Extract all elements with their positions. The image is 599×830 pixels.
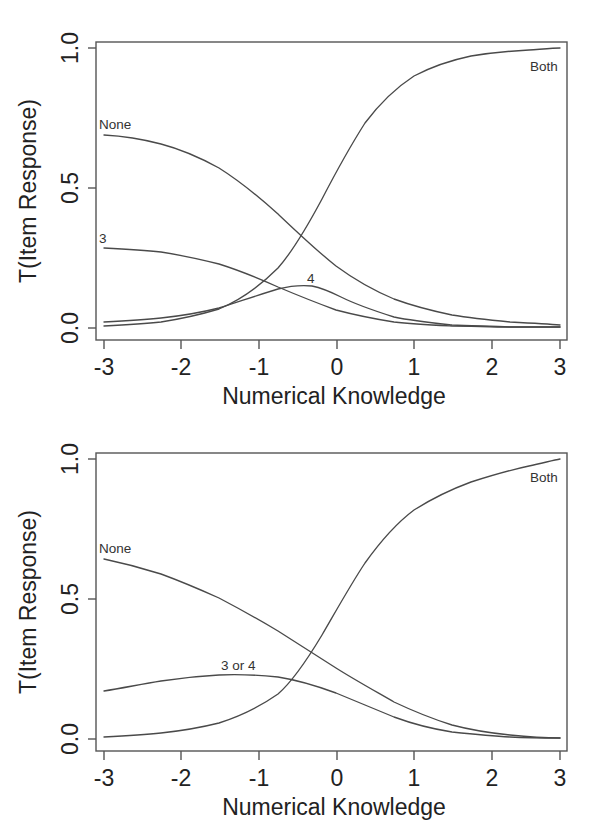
curves-group [104, 48, 560, 327]
curve-label-none: None [99, 541, 131, 556]
bottom-panel: 1.0 0.5 0.0 -3 -2 -1 0 1 2 3 Numerical K… [0, 415, 599, 830]
curve-none [104, 135, 560, 325]
curve-label-none: None [99, 117, 131, 132]
x-axis-title: Numerical Knowledge [222, 794, 446, 820]
curve-label-both: Both [530, 470, 558, 485]
x-ticklabel--1: -1 [249, 354, 269, 380]
curve-label-4: 4 [307, 271, 315, 286]
x-ticklabel-3: 3 [554, 354, 567, 380]
x-ticklabel--3: -3 [94, 354, 114, 380]
x-axis-title: Numerical Knowledge [222, 383, 446, 409]
curve-both [104, 459, 560, 737]
curve-3or4 [104, 675, 560, 738]
y-axis-title: T(Item Response) [15, 99, 41, 283]
curve-label-both: Both [530, 59, 558, 74]
plot-frame [96, 42, 567, 340]
y-ticklabel-0.0: 0.0 [57, 312, 83, 344]
y-ticklabel-0.0: 0.0 [57, 723, 83, 755]
curve-none [104, 559, 560, 738]
stacked-item-response-figure: 1.0 0.5 0.0 -3 -2 -1 0 1 2 3 Numerical K… [0, 0, 599, 830]
x-ticklabel--3: -3 [94, 765, 114, 791]
x-ticklabel-1: 1 [408, 765, 421, 791]
y-ticklabel-1.0: 1.0 [57, 32, 83, 64]
x-ticklabel--1: -1 [249, 765, 269, 791]
x-ticklabel-3: 3 [554, 765, 567, 791]
x-ticklabel-2: 2 [486, 765, 499, 791]
curve-label-3or4: 3 or 4 [221, 658, 256, 673]
curve-4 [104, 286, 560, 327]
y-ticklabel-0.5: 0.5 [57, 583, 83, 615]
x-ticklabel-0: 0 [331, 765, 344, 791]
curve-3 [104, 248, 560, 327]
curve-label-3: 3 [99, 231, 107, 246]
x-ticklabel--2: -2 [171, 765, 191, 791]
curves-group [104, 459, 560, 738]
plot-frame [96, 453, 567, 751]
y-ticklabel-0.5: 0.5 [57, 172, 83, 204]
x-ticklabel--2: -2 [171, 354, 191, 380]
curve-both [104, 48, 560, 326]
top-panel-svg: 1.0 0.5 0.0 -3 -2 -1 0 1 2 3 Numerical K… [0, 0, 599, 415]
bottom-panel-svg: 1.0 0.5 0.0 -3 -2 -1 0 1 2 3 Numerical K… [0, 415, 599, 830]
x-ticklabel-0: 0 [331, 354, 344, 380]
y-ticklabel-1.0: 1.0 [57, 443, 83, 475]
x-ticklabel-2: 2 [486, 354, 499, 380]
x-ticklabel-1: 1 [408, 354, 421, 380]
y-axis-title: T(Item Response) [15, 510, 41, 694]
top-panel: 1.0 0.5 0.0 -3 -2 -1 0 1 2 3 Numerical K… [0, 0, 599, 415]
